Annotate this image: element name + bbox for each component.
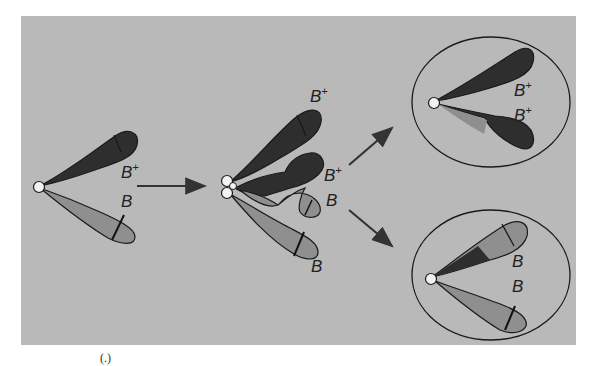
stage-overlap: B+ B+ B B xyxy=(222,85,343,276)
stage-result-top: B+ B+ xyxy=(412,37,570,167)
svg-text:B: B xyxy=(512,252,523,271)
stage-result-bottom: B B xyxy=(412,210,570,340)
stage-initial: B+ B xyxy=(34,131,140,243)
svg-text:B: B xyxy=(121,192,132,211)
svg-text:B+: B+ xyxy=(324,164,342,185)
svg-text:B+: B+ xyxy=(121,161,139,182)
orbital-diagram: B+ B B+ B+ B B B+ B+ xyxy=(0,0,589,366)
caption-fragment: (.) xyxy=(100,351,500,366)
arrow-down-right xyxy=(349,210,392,246)
svg-text:B: B xyxy=(512,277,523,296)
nucleus xyxy=(34,182,45,193)
svg-text:B+: B+ xyxy=(514,104,532,125)
svg-text:B+: B+ xyxy=(310,85,328,106)
svg-text:B: B xyxy=(326,191,337,210)
svg-text:B+: B+ xyxy=(514,79,532,100)
svg-text:B: B xyxy=(311,257,322,276)
arrow-up-right xyxy=(349,128,392,165)
